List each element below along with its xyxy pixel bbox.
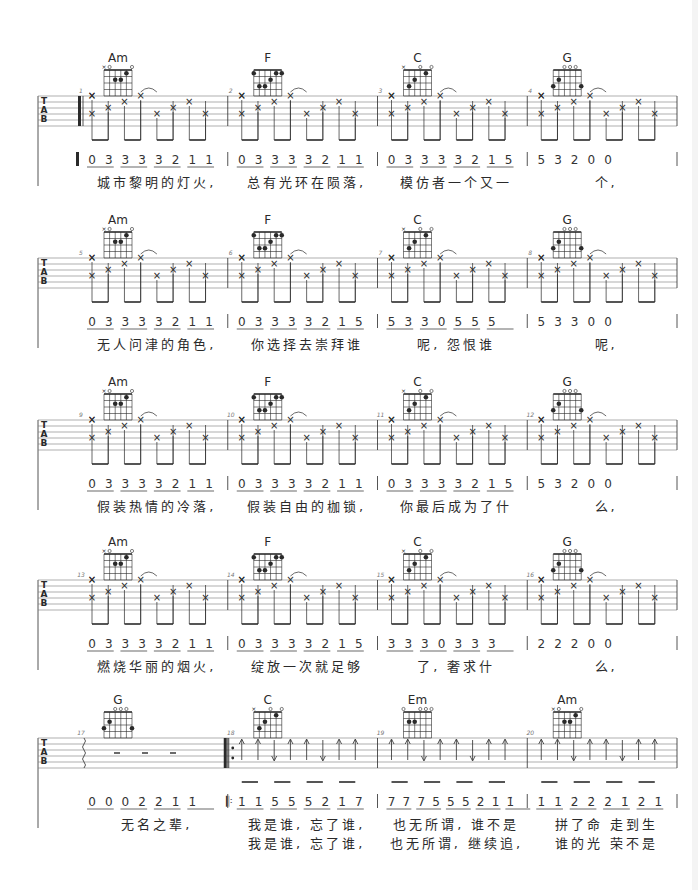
jianpu-note: 3 [105, 637, 113, 651]
tab-clef-b: B [41, 756, 48, 766]
finger-dot [268, 239, 273, 244]
mute-note-icon: × [468, 586, 476, 597]
mute-note-icon: × [634, 96, 642, 107]
bar-16: 16G××××××××××22200么, [526, 535, 677, 674]
jianpu-note: 3 [155, 637, 163, 651]
finger-dot [257, 568, 262, 573]
system-2: TAB5Am×××××××××××03333211无人问津的角色,6F×××××… [38, 213, 677, 352]
finger-dot [263, 84, 268, 89]
repeat-start [224, 738, 227, 768]
finger-dot [113, 77, 118, 82]
guitar-tab-sheet: TAB1Am×××××××××××03333211城市黎明的灯火,2F×××××… [0, 0, 698, 890]
finger-dot [562, 719, 567, 724]
chord-diagram: G [551, 535, 584, 580]
finger-dot [424, 395, 429, 400]
jianpu-note: 2 [172, 315, 180, 329]
chord-diagram: G [551, 375, 584, 420]
jianpu-note: 5 [355, 315, 363, 329]
chord-diagram: G [551, 51, 584, 96]
mute-note-icon: × [88, 574, 96, 585]
tab-clef-b: B [41, 598, 48, 608]
bar-number: 19 [377, 729, 385, 736]
chord-diagram: Em [402, 693, 433, 738]
mute-note-icon: × [634, 580, 642, 591]
lyric-line: 模仿者一个又一 [400, 175, 512, 190]
bar-15: 15C×××××××××××3330333了, 奢求什 [377, 535, 528, 674]
open-string-icon [557, 707, 560, 710]
mute-note-icon: × [254, 426, 262, 437]
system-3: TAB9Am×××××××××××03333211假装热情的冷落,10F××××… [38, 375, 677, 514]
bar-number: 7 [379, 249, 383, 256]
bar-13: 13Am×××××××××××03333211燃烧华丽的烟火, [77, 535, 228, 674]
lyric-line: 也无所谓, 谁不是 [393, 817, 519, 832]
mute-note-icon: × [270, 580, 278, 591]
jianpu-note: 1 [205, 637, 213, 651]
mute-note-icon: × [185, 96, 193, 107]
jianpu-note: 1 [338, 153, 346, 167]
lyric-line: 么, [595, 499, 618, 514]
jianpu-note: 3 [404, 153, 412, 167]
jianpu-note: 2̇ [604, 795, 612, 809]
chord-name: Am [108, 213, 128, 227]
finger-dot [579, 246, 584, 251]
finger-dot [113, 561, 118, 566]
chord-name: Am [108, 535, 128, 549]
mute-note-icon: × [634, 258, 642, 269]
finger-dot [263, 246, 268, 251]
bar-number: 20 [526, 729, 534, 736]
muted-string-icon: × [401, 387, 406, 394]
jianpu-note: 5 [488, 315, 496, 329]
jianpu-note: 1 [355, 153, 363, 167]
jianpu-note: 1̇ [537, 795, 545, 809]
mute-note-icon: × [104, 264, 112, 275]
chord-name: G [563, 51, 572, 65]
mute-note-icon: × [254, 264, 262, 275]
bar-number: 11 [377, 411, 385, 418]
mute-note-icon: × [302, 108, 310, 119]
mute-note-icon: × [120, 420, 128, 431]
jianpu-note: 3 [255, 477, 263, 491]
lyric-line: 无人问津的角色, [97, 337, 216, 352]
mute-note-icon: × [537, 90, 545, 101]
finger-dot [251, 233, 256, 238]
mute-note-icon: × [120, 258, 128, 269]
finger-dot [119, 77, 124, 82]
mute-note-icon: × [335, 96, 343, 107]
mute-note-icon: × [602, 592, 610, 603]
repeat-sign-icon: 𝄆 [226, 793, 233, 809]
bar-number: 18 [227, 729, 235, 736]
open-string-icon [108, 389, 111, 392]
jianpu-note: 3 [421, 153, 429, 167]
bar-number: 15 [377, 571, 385, 578]
finger-dot [124, 555, 129, 560]
finger-dot [263, 568, 268, 573]
finger-dot [130, 726, 135, 731]
finger-dot [107, 719, 112, 724]
bar-3: 3C×××××××××××03333215模仿者一个又一 [379, 51, 528, 190]
jianpu-note: 3 [471, 637, 479, 651]
jianpu-note: 1 [338, 637, 346, 651]
jianpu-note: 5 [537, 315, 545, 329]
mute-note-icon: × [351, 592, 359, 603]
bar-14: 14F××××××××××03333215绽放一次就足够 [227, 535, 378, 674]
bar-20: 20Am×1̇1̇2̇2̇2̇1̇2̇1̇拼了命 走到生谁的光 荣不是 [526, 693, 677, 851]
jianpu-note: 3 [404, 637, 412, 651]
chord-name: G [563, 375, 572, 389]
open-string-icon [419, 707, 422, 710]
mute-note-icon: × [602, 270, 610, 281]
jianpu-note: 0 [588, 315, 596, 329]
bar-number: 1 [79, 87, 83, 94]
bar-number: 4 [528, 87, 532, 94]
jianpu-note: 0 [238, 315, 246, 329]
mute-note-icon: × [537, 414, 545, 425]
jianpu-note: 1 [205, 477, 213, 491]
chord-diagram: G [551, 213, 584, 258]
chord-name: F [264, 213, 271, 227]
chord-diagram: G [102, 693, 135, 738]
mute-note-icon: × [553, 426, 561, 437]
lyric-line: 城市黎明的灯火, [97, 175, 216, 190]
finger-dot [279, 71, 284, 76]
finger-dot [557, 77, 562, 82]
jianpu-note: 3 [255, 637, 263, 651]
mute-note-icon: × [319, 102, 327, 113]
